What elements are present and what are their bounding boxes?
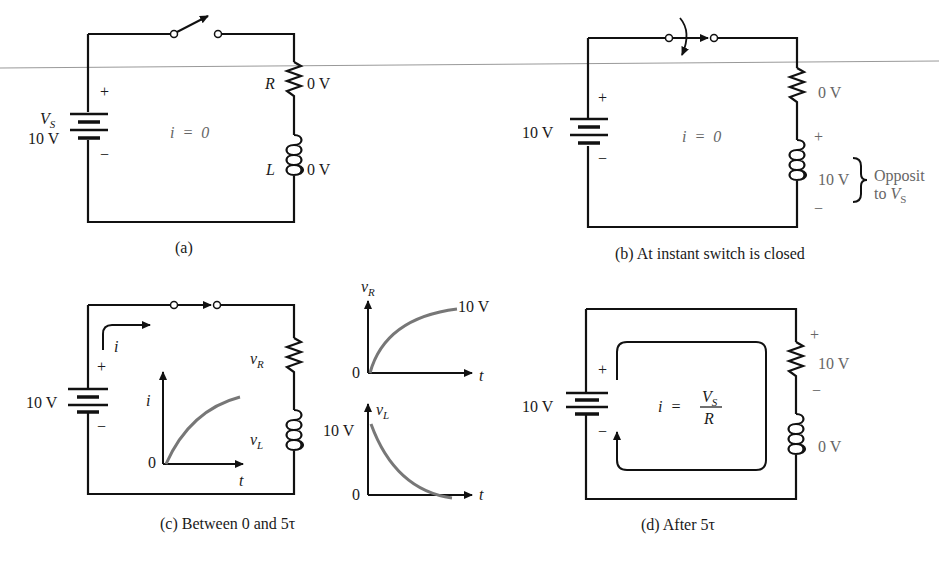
inductor-icon bbox=[287, 410, 304, 467]
vl-curve bbox=[371, 424, 452, 498]
plus-sign: + bbox=[598, 361, 607, 378]
current-numerator: VS bbox=[702, 388, 718, 408]
battery-icon bbox=[70, 114, 108, 138]
resistor-minus: − bbox=[812, 382, 821, 399]
source-label: VS bbox=[40, 110, 56, 130]
current-arrow-icon bbox=[103, 325, 150, 350]
top-wire bbox=[586, 309, 796, 342]
battery-icon bbox=[570, 119, 608, 143]
vl-start-value: 10 V bbox=[323, 422, 355, 439]
rl-transient-figure: + − VS 10 V i = 0 R 0 V L 0 V (a) + − 10… bbox=[0, 0, 939, 563]
inset-x-label: t bbox=[239, 472, 244, 489]
inductor-label: L bbox=[265, 161, 275, 178]
resistor-voltage: 10 V bbox=[818, 355, 850, 372]
resistor-voltage: 0 V bbox=[818, 84, 842, 101]
closing-arrow-icon bbox=[680, 18, 687, 55]
caption-d: (d) After 5τ bbox=[641, 516, 716, 534]
plus-sign: + bbox=[598, 89, 607, 106]
caption-b: (b) At instant switch is closed bbox=[615, 245, 805, 263]
brace-icon bbox=[853, 158, 867, 202]
resistor-plus: + bbox=[810, 326, 819, 343]
inductor-voltage: 0 V bbox=[818, 438, 842, 455]
vr-x-label: t bbox=[479, 367, 484, 384]
source-value: 10 V bbox=[522, 398, 554, 415]
vl-y-label: vL bbox=[376, 401, 389, 421]
vl-graph: vL 10 V 0 t bbox=[323, 401, 484, 503]
inductor-icon bbox=[287, 135, 304, 196]
current-loop-arrow-icon bbox=[617, 342, 766, 470]
battery-icon bbox=[68, 389, 108, 412]
minus-sign: − bbox=[97, 418, 106, 435]
annotation-opposite: Opposit bbox=[874, 167, 925, 185]
vr-curve bbox=[370, 309, 457, 373]
inductor-label: vL bbox=[250, 431, 263, 451]
annotation-to-vs: to VS bbox=[874, 185, 906, 205]
source-value: 10 V bbox=[28, 130, 60, 147]
resistor-icon bbox=[789, 342, 803, 414]
panel-c: i + − 10 V vR vL i t 0 (c) Between 0 and… bbox=[26, 302, 303, 534]
inductor-minus: − bbox=[814, 200, 823, 217]
vr-graph: vR 10 V 0 t bbox=[352, 278, 490, 384]
switch-terminal-icon bbox=[711, 35, 718, 42]
inset-y-label: i bbox=[146, 392, 150, 409]
inductor-icon bbox=[789, 414, 806, 472]
source-value: 10 V bbox=[26, 394, 58, 411]
resistor-icon bbox=[287, 62, 301, 135]
plus-sign: + bbox=[100, 83, 109, 100]
caption-a: (a) bbox=[175, 239, 193, 257]
minus-sign: − bbox=[598, 150, 607, 167]
vr-end-value: 10 V bbox=[458, 298, 490, 315]
inductor-voltage: 10 V bbox=[818, 171, 850, 188]
inductor-plus: + bbox=[814, 128, 823, 145]
resistor-icon bbox=[790, 68, 804, 140]
top-wire bbox=[88, 34, 294, 62]
caption-c: (c) Between 0 and 5τ bbox=[160, 515, 296, 533]
switch-terminal-icon bbox=[666, 35, 673, 42]
panel-a: + − VS 10 V i = 0 R 0 V L 0 V (a) bbox=[28, 16, 331, 257]
loop-wire bbox=[88, 305, 294, 494]
switch-terminal-icon bbox=[215, 31, 222, 38]
inset-origin: 0 bbox=[148, 454, 156, 471]
minus-sign: − bbox=[100, 146, 109, 163]
resistor-label: R bbox=[264, 75, 275, 92]
vr-origin: 0 bbox=[352, 364, 360, 381]
current-curve bbox=[166, 397, 240, 464]
inductor-voltage: 0 V bbox=[307, 161, 331, 178]
switch-blade-icon bbox=[177, 16, 208, 32]
switch-terminal-icon bbox=[171, 31, 178, 38]
panel-d: + − 10 V i = VS R + 10 V − 0 V (d) After… bbox=[522, 309, 850, 534]
resistor-voltage: 0 V bbox=[307, 75, 331, 92]
panel-b: + − 10 V i = 0 0 V + 10 V − Opposit to V… bbox=[522, 18, 925, 263]
plus-sign: + bbox=[97, 358, 106, 375]
switch-terminal-icon bbox=[171, 302, 178, 309]
top-wire bbox=[88, 305, 294, 338]
resistor-icon bbox=[287, 338, 301, 410]
current-label: i bbox=[114, 338, 118, 355]
inset-current-graph: i t 0 bbox=[146, 372, 244, 489]
vl-origin: 0 bbox=[352, 486, 360, 503]
resistor-label: vR bbox=[250, 350, 264, 370]
minus-sign: − bbox=[598, 423, 607, 440]
current-equation-lhs: i = bbox=[658, 398, 681, 415]
battery-icon bbox=[566, 393, 608, 414]
source-value: 10 V bbox=[522, 124, 554, 141]
scan-line bbox=[0, 61, 939, 68]
current-label: i = 0 bbox=[682, 128, 721, 145]
vl-x-label: t bbox=[479, 486, 484, 503]
current-denominator: R bbox=[703, 410, 714, 427]
switch-terminal-icon bbox=[214, 302, 221, 309]
vr-y-label: vR bbox=[361, 278, 375, 298]
inductor-icon bbox=[790, 140, 807, 205]
current-label: i = 0 bbox=[170, 124, 209, 141]
